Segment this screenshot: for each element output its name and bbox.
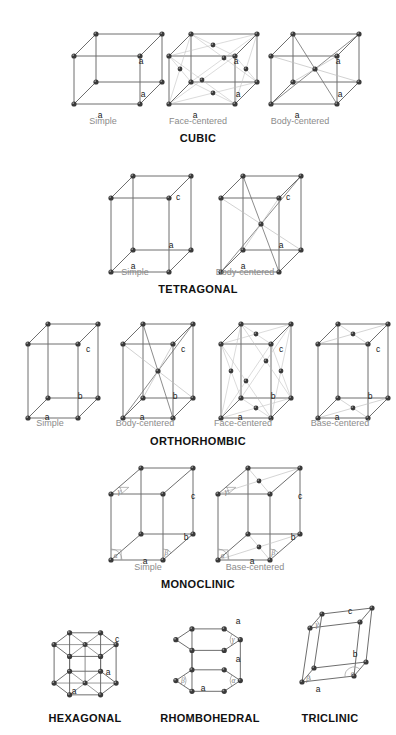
lattice-cell-triclinic-primitive: γβα xyxy=(290,594,376,698)
lattice-node xyxy=(244,379,249,384)
lattice-edge-faint xyxy=(213,45,235,56)
lattice-cell-monoclinic-base-centered: αβγ xyxy=(212,468,328,594)
lattice-node xyxy=(95,395,100,400)
axis-label-b: b xyxy=(75,391,85,401)
lattice-edge xyxy=(221,176,243,198)
lattice-edge-faint xyxy=(169,80,202,104)
lattice-node xyxy=(98,692,103,697)
lattice-edge-faint xyxy=(202,80,235,104)
lattice-node xyxy=(137,101,142,106)
lattice-edge-faint xyxy=(221,344,246,381)
lattice-node xyxy=(189,689,194,694)
lattice-node xyxy=(268,101,273,106)
axis-label-a: a xyxy=(136,56,146,66)
lattice-edge-faint xyxy=(353,334,368,344)
lattice-node xyxy=(189,648,194,653)
lattice-cell-rhombohedral-primitive: γβα xyxy=(168,600,264,696)
lattice-edge xyxy=(140,34,162,56)
lattice-edge xyxy=(78,398,98,418)
axis-label-a: a xyxy=(233,89,243,99)
lattice-edge-faint xyxy=(169,93,213,104)
lattice-node xyxy=(188,31,193,36)
axis-label-a: a xyxy=(140,556,150,566)
lattice-node xyxy=(279,369,284,374)
axis-label-c: c xyxy=(112,634,122,644)
lattice-node xyxy=(140,395,145,400)
lattice-node xyxy=(200,78,205,83)
lattice-node xyxy=(268,53,273,58)
lattice-node xyxy=(365,341,370,346)
lattice-node xyxy=(334,101,339,106)
lattice-node xyxy=(311,665,316,670)
lattice-node xyxy=(215,491,220,496)
axis-label-a: a xyxy=(231,56,241,66)
lattice-node xyxy=(173,678,178,683)
lattice-edge xyxy=(101,683,117,695)
angle-label-alpha: α xyxy=(114,551,119,560)
lattice-edge xyxy=(173,398,193,418)
lattice-node xyxy=(188,79,193,84)
lattice-node xyxy=(25,341,30,346)
lattice-node xyxy=(385,395,390,400)
lattice-edge-faint xyxy=(169,56,202,80)
axis-label-a: a xyxy=(233,654,243,664)
axis-label-c: c xyxy=(173,192,183,202)
lattice-node xyxy=(312,66,317,71)
lattice-edge xyxy=(70,645,86,657)
axis-label-a: a xyxy=(42,412,52,422)
lattice-edge xyxy=(85,633,101,645)
axis-label-c: c xyxy=(276,344,286,354)
lattice-edge-faint xyxy=(221,344,231,371)
lattice-node xyxy=(189,667,194,672)
lattice-node xyxy=(98,654,103,659)
lattice-node xyxy=(45,395,50,400)
lattice-node xyxy=(52,680,57,685)
lattice-node xyxy=(160,491,165,496)
lattice-node xyxy=(385,321,390,326)
lattice-node xyxy=(268,341,273,346)
lattice-edge xyxy=(337,34,359,56)
lattice-node xyxy=(138,465,143,470)
bravais-lattice-figure: CUBICSimpleFace-centeredBody-centeredaaa… xyxy=(0,0,396,735)
lattice-node xyxy=(288,395,293,400)
lattice-node xyxy=(71,101,76,106)
axis-label-c: c xyxy=(188,491,198,501)
angle-label-beta: β xyxy=(180,676,185,685)
lattice-node xyxy=(238,321,243,326)
lattice-node xyxy=(93,79,98,84)
lattice-edge xyxy=(78,324,98,344)
lattice-node xyxy=(229,369,234,374)
lattice-node xyxy=(357,619,362,624)
lattice-node xyxy=(170,341,175,346)
lattice-node xyxy=(335,321,340,326)
lattice-node xyxy=(238,637,243,642)
lattice-node xyxy=(222,56,227,61)
lattice-node xyxy=(138,531,143,536)
lattice-node xyxy=(319,611,324,616)
angle-label-alpha: α xyxy=(221,551,226,560)
axis-label-a: a xyxy=(103,667,113,677)
axis-label-a: a xyxy=(333,56,343,66)
axis-label-a: a xyxy=(138,89,148,99)
lattice-edge-faint xyxy=(353,408,368,418)
lattice-edge-faint xyxy=(231,371,241,398)
lattice-node xyxy=(351,406,356,411)
lattice-node xyxy=(298,247,303,252)
lattice-node xyxy=(166,53,171,58)
lattice-edge-faint xyxy=(241,324,266,361)
axis-label-a: a xyxy=(276,240,286,250)
lattice-edge xyxy=(54,633,70,645)
lattice-cell-hexagonal-primitive xyxy=(45,600,141,696)
lattice-edge-faint xyxy=(213,34,257,45)
lattice-edge xyxy=(271,82,293,104)
lattice-edge-faint xyxy=(191,58,224,82)
lattice-node xyxy=(95,321,100,326)
lattice-edge-faint xyxy=(256,408,271,418)
lattice-edge-faint xyxy=(213,93,235,104)
lattice-node xyxy=(188,247,193,252)
lattice-edge-faint xyxy=(224,34,257,58)
axis-label-b: b xyxy=(350,649,360,659)
lattice-node xyxy=(299,679,304,684)
lattice-edge xyxy=(176,640,192,651)
axis-label-a: a xyxy=(128,261,138,271)
